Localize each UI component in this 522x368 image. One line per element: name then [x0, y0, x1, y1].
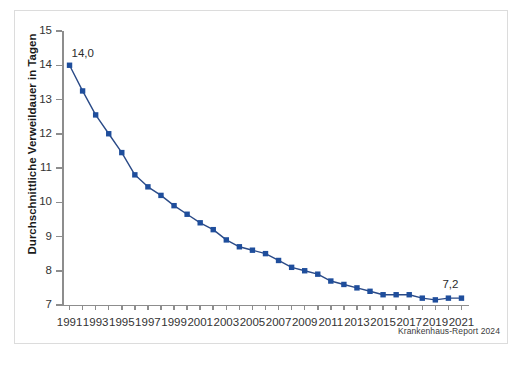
y-axis-tick	[56, 65, 62, 67]
y-axis-tick	[56, 236, 62, 238]
y-axis-tick-label-text: 12	[30, 128, 52, 140]
series-data-point	[420, 295, 425, 300]
series-data-point	[315, 271, 320, 276]
series-data-point	[354, 285, 359, 290]
series-data-point	[80, 88, 85, 93]
x-axis-tick	[147, 305, 149, 310]
y-axis-tick-label: 7	[30, 299, 52, 311]
series-data-point	[211, 227, 216, 232]
data-series-line	[63, 31, 468, 305]
x-axis-tick	[461, 305, 463, 310]
y-axis-tick-label-text: 9	[30, 231, 52, 243]
x-axis-tick	[95, 305, 97, 310]
y-axis-tick-label: 10	[30, 196, 52, 208]
y-axis-tick-label-text: 13	[30, 94, 52, 106]
chart-figure: Durchschnittliche Verweildauer in Tagen …	[0, 0, 522, 368]
series-data-point	[158, 193, 163, 198]
x-axis-tick	[226, 305, 228, 310]
series-data-point	[393, 292, 398, 297]
series-data-point	[132, 172, 137, 177]
y-axis-tick-label-text: 15	[30, 25, 52, 37]
data-point-label: 14,0	[72, 48, 94, 60]
y-axis-tick-label: 12	[30, 128, 52, 140]
y-axis-tick-label: 13	[30, 94, 52, 106]
x-axis-tick	[134, 305, 136, 310]
series-data-point	[106, 131, 111, 136]
y-axis-tick-label: 8	[30, 265, 52, 277]
series-data-point	[67, 63, 72, 68]
y-axis-tick	[56, 30, 62, 32]
x-axis-tick	[343, 305, 345, 310]
y-axis-tick-label-text: 14	[30, 59, 52, 71]
x-axis-tick	[395, 305, 397, 310]
x-axis-tick	[330, 305, 332, 310]
x-axis-tick	[317, 305, 319, 310]
series-data-point	[289, 265, 294, 270]
x-axis-tick	[82, 305, 84, 310]
series-data-point	[276, 258, 281, 263]
series-data-point	[380, 292, 385, 297]
x-axis-tick	[291, 305, 293, 310]
x-axis-tick	[304, 305, 306, 310]
y-axis-tick-label: 15	[30, 25, 52, 37]
y-axis-tick	[56, 99, 62, 101]
x-axis-tick	[408, 305, 410, 310]
y-axis-tick	[56, 167, 62, 169]
series-polyline	[70, 65, 462, 300]
series-data-point	[184, 212, 189, 217]
x-axis-tick	[108, 305, 110, 310]
y-axis-tick	[56, 202, 62, 204]
x-axis-tick	[435, 305, 437, 310]
y-axis-tick-label-text: 11	[30, 162, 52, 174]
y-axis-tick-label-text: 10	[30, 196, 52, 208]
series-data-point	[446, 295, 451, 300]
data-point-label: 7,2	[442, 279, 458, 291]
source-attribution: Krankenhaus-Report 2024	[398, 326, 500, 336]
y-axis-tick	[56, 133, 62, 135]
series-data-point	[328, 278, 333, 283]
x-axis-tick	[212, 305, 214, 310]
y-axis-tick-label: 14	[30, 59, 52, 71]
series-data-point	[433, 297, 438, 302]
x-axis-tick	[199, 305, 201, 310]
y-axis-tick	[56, 270, 62, 272]
series-data-point	[250, 248, 255, 253]
x-axis-tick	[160, 305, 162, 310]
x-axis-tick	[121, 305, 123, 310]
series-data-point	[197, 220, 202, 225]
series-data-point	[367, 289, 372, 294]
x-axis-tick	[422, 305, 424, 310]
series-data-point	[302, 268, 307, 273]
series-data-point	[224, 237, 229, 242]
x-axis-tick	[69, 305, 71, 310]
series-data-point	[171, 203, 176, 208]
x-axis-tick	[369, 305, 371, 310]
series-data-point	[237, 244, 242, 249]
y-axis-tick-label-text: 8	[30, 265, 52, 277]
x-axis-tick	[356, 305, 358, 310]
series-data-point	[263, 251, 268, 256]
series-data-point	[341, 282, 346, 287]
series-data-point	[119, 150, 124, 155]
y-axis-title: Durchschnittliche Verweildauer in Tagen	[26, 0, 38, 289]
series-data-point	[145, 184, 150, 189]
y-axis-tick-label: 11	[30, 162, 52, 174]
series-data-point	[407, 292, 412, 297]
x-axis-tick	[448, 305, 450, 310]
x-axis-tick	[265, 305, 267, 310]
x-axis-tick	[186, 305, 188, 310]
x-axis-tick	[382, 305, 384, 310]
x-axis-tick	[173, 305, 175, 310]
series-data-point	[459, 295, 464, 300]
y-axis-tick	[56, 304, 62, 306]
series-data-point	[93, 112, 98, 117]
y-axis-tick-label-text: 7	[30, 299, 52, 311]
x-axis-tick	[239, 305, 241, 310]
x-axis-tick	[252, 305, 254, 310]
x-axis-tick	[278, 305, 280, 310]
y-axis-tick-label: 9	[30, 231, 52, 243]
